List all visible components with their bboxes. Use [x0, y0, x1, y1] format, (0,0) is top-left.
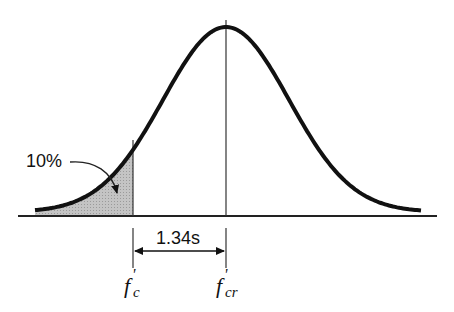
svg-text:c: c — [133, 284, 140, 300]
percent-label: 10% — [26, 151, 62, 171]
svg-text:': ' — [132, 266, 136, 283]
normal-distribution-diagram: 10% 1.34s f ' c f ' cr — [0, 0, 454, 312]
bell-curve — [35, 27, 421, 211]
fcr-label: f ' cr — [216, 266, 238, 300]
svg-text:': ' — [224, 266, 228, 283]
svg-text:cr: cr — [225, 284, 238, 300]
fc-label: f ' c — [124, 266, 140, 300]
dimension-label: 1.34s — [156, 228, 200, 248]
